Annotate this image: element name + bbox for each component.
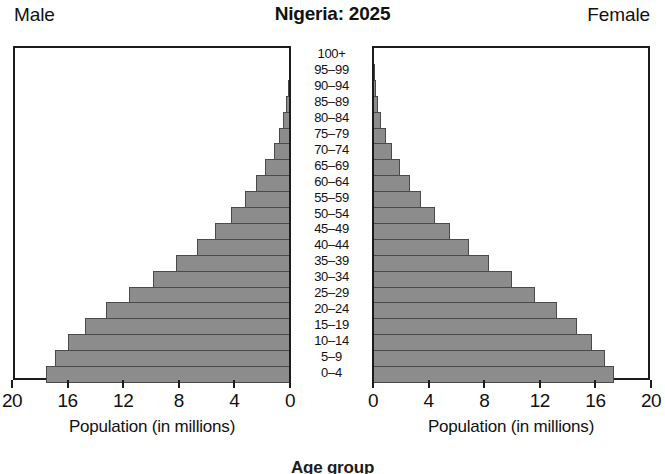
bar-male-35-39 — [176, 255, 289, 272]
female-axis-tick — [594, 380, 596, 388]
male-axis-tick — [11, 380, 13, 388]
female-axis-tick — [428, 380, 430, 388]
bar-female-85-89 — [374, 96, 378, 113]
age-group-label: 0–4 — [291, 366, 372, 379]
bar-female-45-49 — [374, 223, 450, 240]
age-group-label: 10–14 — [291, 334, 372, 347]
male-axis-tick-label: 20 — [2, 390, 22, 412]
bar-female-70-74 — [374, 143, 392, 160]
female-axis-tick-label: 4 — [424, 390, 434, 412]
bar-male-0-4 — [46, 366, 289, 383]
bar-male-5-9 — [55, 350, 289, 367]
age-group-label: 60–64 — [291, 175, 372, 188]
chart-header: Male Nigeria: 2025 Female — [0, 0, 665, 34]
female-axis-tick — [650, 380, 652, 388]
age-group-label: 50–54 — [291, 207, 372, 220]
bar-male-25-29 — [129, 287, 289, 304]
bar-female-50-54 — [374, 207, 435, 224]
male-bars-layer — [15, 48, 289, 378]
bar-female-65-69 — [374, 159, 400, 176]
bar-male-10-14 — [68, 334, 289, 351]
age-group-label: 25–29 — [291, 286, 372, 299]
bar-female-40-44 — [374, 239, 469, 256]
female-series-label: Female — [587, 4, 650, 26]
chart-title: Nigeria: 2025 — [0, 3, 665, 25]
male-axis-tick-label: 4 — [229, 390, 239, 412]
bar-male-40-44 — [197, 239, 289, 256]
bar-male-85-89 — [286, 96, 289, 113]
female-bars-layer — [374, 48, 648, 378]
bar-female-55-59 — [374, 191, 421, 208]
bar-male-30-34 — [153, 271, 289, 288]
bar-female-30-34 — [374, 271, 512, 288]
female-plot-area — [372, 46, 650, 380]
age-group-label: 95–99 — [291, 63, 372, 76]
bar-male-55-59 — [245, 191, 289, 208]
female-axis-tick — [372, 380, 374, 388]
bar-male-60-64 — [256, 175, 289, 192]
bar-female-5-9 — [374, 350, 605, 367]
bar-female-90-94 — [374, 80, 376, 97]
bar-female-95-99 — [374, 64, 375, 81]
male-axis-tick — [67, 380, 69, 388]
male-axis-tick — [178, 380, 180, 388]
male-axis-tick — [122, 380, 124, 388]
age-group-label: 55–59 — [291, 191, 372, 204]
bar-female-75-79 — [374, 128, 386, 145]
female-axis-tick — [539, 380, 541, 388]
bar-male-65-69 — [265, 159, 289, 176]
age-group-label: 100+ — [291, 47, 372, 60]
female-axis-tick-label: 16 — [585, 390, 605, 412]
bar-female-80-84 — [374, 112, 381, 129]
male-axis-tick-label: 16 — [58, 390, 78, 412]
male-axis-caption: Population (in millions) — [13, 417, 291, 437]
male-axis-tick — [233, 380, 235, 388]
male-axis-tick-label: 8 — [174, 390, 184, 412]
bar-male-90-94 — [288, 80, 289, 97]
bar-male-75-79 — [279, 128, 289, 145]
male-axis-tick-label: 12 — [113, 390, 133, 412]
age-group-label-column: 100+95–9990–9485–8980–8475–7970–7465–696… — [291, 46, 372, 380]
bar-female-35-39 — [374, 255, 489, 272]
male-axis-tick — [289, 380, 291, 388]
bar-female-20-24 — [374, 302, 557, 319]
age-group-label: 70–74 — [291, 143, 372, 156]
bar-male-80-84 — [283, 112, 289, 129]
age-group-label: 20–24 — [291, 302, 372, 315]
female-axis-caption: Population (in millions) — [372, 417, 650, 437]
bar-female-0-4 — [374, 366, 614, 383]
male-axis-tick-label: 0 — [285, 390, 295, 412]
age-group-label: 90–94 — [291, 79, 372, 92]
age-group-axis-caption: Age group — [0, 458, 665, 474]
bar-male-45-49 — [215, 223, 289, 240]
age-group-label: 65–69 — [291, 159, 372, 172]
female-axis-tick-label: 12 — [530, 390, 550, 412]
age-group-label: 75–79 — [291, 127, 372, 140]
female-axis-tick-label: 8 — [479, 390, 489, 412]
female-axis-tick — [483, 380, 485, 388]
age-group-label: 40–44 — [291, 238, 372, 251]
female-axis-tick-label: 0 — [368, 390, 378, 412]
bar-female-25-29 — [374, 287, 535, 304]
age-group-label: 5–9 — [291, 350, 372, 363]
bar-female-15-19 — [374, 318, 577, 335]
bar-male-20-24 — [106, 302, 289, 319]
bar-female-10-14 — [374, 334, 592, 351]
age-group-label: 85–89 — [291, 95, 372, 108]
bar-male-15-19 — [85, 318, 289, 335]
bar-male-70-74 — [274, 143, 289, 160]
age-group-label: 30–34 — [291, 270, 372, 283]
age-group-label: 45–49 — [291, 222, 372, 235]
bar-female-60-64 — [374, 175, 410, 192]
age-group-label: 15–19 — [291, 318, 372, 331]
bar-male-50-54 — [231, 207, 289, 224]
male-plot-area — [13, 46, 291, 380]
age-group-label: 80–84 — [291, 111, 372, 124]
age-group-label: 35–39 — [291, 254, 372, 267]
female-axis-tick-label: 20 — [641, 390, 661, 412]
